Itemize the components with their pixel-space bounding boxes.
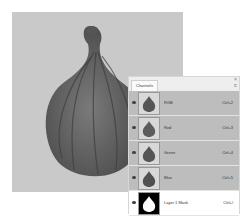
eye-icon[interactable] (132, 176, 136, 179)
channel-row-blue[interactable]: Blue Ctrl+5 (129, 166, 239, 191)
tab-channels[interactable]: Channels (131, 80, 158, 91)
eye-icon[interactable] (132, 201, 136, 204)
panel-header: Channels × ≡ (129, 77, 239, 92)
channel-row-layer-mask[interactable]: Layer 1 Mask Ctrl+\ (129, 191, 239, 216)
channel-name: Blue (164, 175, 172, 180)
channel-name: Red (164, 125, 171, 130)
channel-thumbnail (138, 142, 160, 165)
channel-shortcut: Ctrl+3 (222, 125, 233, 130)
eye-icon[interactable] (132, 151, 136, 154)
channel-shortcut: Ctrl+4 (222, 150, 233, 155)
channel-thumbnail (138, 117, 160, 140)
eye-icon[interactable] (132, 101, 136, 104)
channels-panel: Channels × ≡ RGB Ctrl+2 Red Ctrl+3 Green… (128, 76, 240, 214)
channel-name: Green (164, 150, 175, 155)
channel-row-green[interactable]: Green Ctrl+4 (129, 141, 239, 166)
channel-row-red[interactable]: Red Ctrl+3 (129, 116, 239, 141)
channel-thumbnail (138, 92, 160, 115)
channel-shortcut: Ctrl+2 (222, 100, 233, 105)
eye-icon[interactable] (132, 126, 136, 129)
channel-name: Layer 1 Mask (164, 200, 188, 205)
channel-shortcut: Ctrl+5 (222, 175, 233, 180)
channel-row-rgb[interactable]: RGB Ctrl+2 (129, 91, 239, 116)
channel-thumbnail (138, 167, 160, 190)
mask-thumbnail (138, 192, 160, 215)
panel-menu-icon[interactable]: ≡ (234, 82, 237, 88)
channel-shortcut: Ctrl+\ (223, 200, 233, 205)
channel-name: RGB (164, 100, 173, 105)
